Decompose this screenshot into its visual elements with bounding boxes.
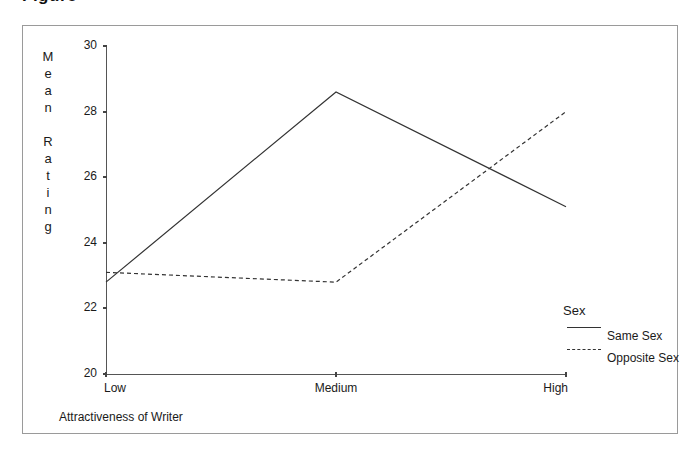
- legend-label-text: Same Sex: [607, 330, 662, 343]
- series-line-opposite-sex: [106, 112, 566, 283]
- legend-entry-opposite-sex[interactable]: Opposite Sex: [563, 346, 675, 368]
- chart-legend: Sex Same SexOpposite Sex: [563, 304, 675, 368]
- series-line-same-sex: [106, 92, 566, 282]
- legend-entries: Same SexOpposite Sex: [563, 324, 675, 368]
- series-lines: [23, 26, 679, 435]
- figure-caption-stub: Figure: [22, 0, 77, 6]
- figure-frame: M e a n R a t i n g 302826242220 LowMedi…: [22, 25, 678, 434]
- x-axis-title: Attractiveness of Writer: [59, 410, 183, 424]
- legend-title: Sex: [563, 304, 675, 318]
- legend-label-text: Opposite Sex: [607, 352, 679, 365]
- legend-line-sample: [567, 349, 601, 350]
- legend-entry-same-sex[interactable]: Same Sex: [563, 324, 675, 346]
- legend-line-sample: [567, 327, 601, 328]
